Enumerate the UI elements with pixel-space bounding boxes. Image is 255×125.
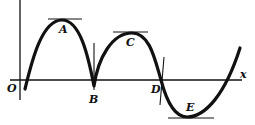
graph-canvas: O x A B C D E bbox=[0, 0, 255, 125]
point-label-e: E bbox=[185, 101, 195, 114]
point-label-a: A bbox=[58, 23, 68, 36]
function-curve bbox=[25, 20, 240, 117]
point-label-d: D bbox=[150, 83, 161, 96]
function-graph-diagram: O x A B C D E bbox=[0, 0, 255, 125]
point-label-b: B bbox=[88, 93, 98, 106]
x-axis-label: x bbox=[239, 68, 247, 81]
origin-label: O bbox=[7, 82, 17, 95]
point-label-c: C bbox=[126, 36, 135, 49]
